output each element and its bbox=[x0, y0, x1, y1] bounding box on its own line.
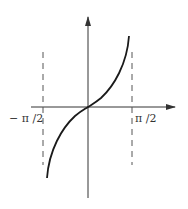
label-neg-half-pi: − π /2 bbox=[9, 112, 43, 125]
label-pos-half-pi: π /2 bbox=[135, 112, 156, 125]
tangent-graph bbox=[0, 0, 188, 209]
